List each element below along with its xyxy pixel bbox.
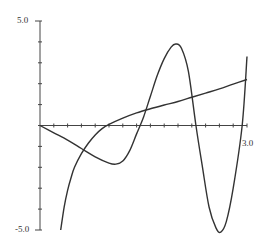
- oscillating-curve-line: [40, 44, 247, 232]
- chart-plot: [0, 0, 266, 251]
- y-max-label: 5.0: [17, 15, 28, 25]
- curves: [40, 44, 247, 232]
- x-max-label: 3.0: [242, 138, 253, 148]
- y-min-label: -5.0: [15, 224, 29, 234]
- axes: [35, 21, 247, 230]
- smooth-curve-line: [61, 80, 247, 230]
